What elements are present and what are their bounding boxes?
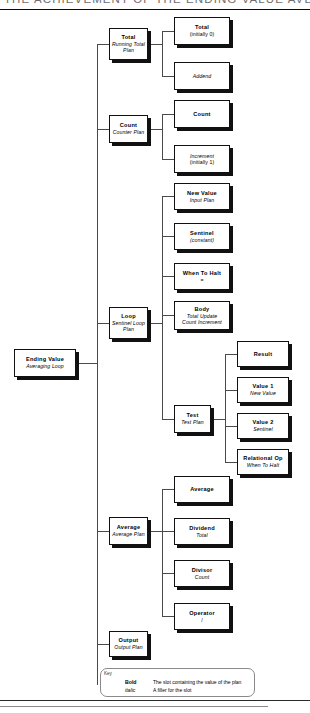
node-total-running-total-plan[interactable]: Total Running Total Plan bbox=[109, 28, 148, 60]
key-desc-italic: A filler for the slot bbox=[153, 687, 191, 693]
node-italic-label: Total bbox=[196, 532, 208, 538]
connector-average-out bbox=[147, 531, 163, 532]
connector-count-bus bbox=[162, 114, 163, 159]
header-rule bbox=[0, 9, 310, 10]
key-desc-bold: The slot containing the value of the pla… bbox=[153, 679, 241, 685]
node-italic-label-2: Count Increment bbox=[182, 319, 222, 325]
node-increment-slot[interactable]: Increment (initially 1) bbox=[174, 145, 230, 173]
node-italic-label: Test Plan bbox=[181, 419, 203, 425]
connector-relop-slot bbox=[225, 462, 237, 463]
key-panel: Key Bold The slot containing the value o… bbox=[100, 668, 255, 697]
footer-rule bbox=[0, 700, 310, 701]
connector-value2-slot bbox=[225, 426, 237, 427]
node-bold-label: New Value bbox=[187, 190, 217, 197]
node-total-slot[interactable]: Total (initially 0) bbox=[174, 17, 230, 45]
connector-total-out bbox=[147, 44, 163, 45]
connector-trunk-count bbox=[97, 129, 109, 130]
connector-total-slot bbox=[162, 31, 174, 32]
connector-count-out bbox=[147, 129, 163, 130]
node-normal-label: = bbox=[200, 277, 203, 283]
connector-value1-slot bbox=[225, 390, 237, 391]
node-relational-op-slot[interactable]: Relational Op When To Halt bbox=[237, 449, 289, 475]
node-bold-label: Ending Value bbox=[26, 356, 64, 363]
node-italic-label: Addend bbox=[193, 73, 212, 79]
connector-test-bus bbox=[225, 354, 226, 462]
node-bold-label: Relational Op bbox=[243, 455, 282, 462]
connector-trunk-average bbox=[97, 531, 109, 532]
connector-average-slot bbox=[162, 489, 174, 490]
connector-addend-slot bbox=[162, 76, 174, 77]
node-bold-label: Test bbox=[186, 412, 198, 419]
node-new-value-slot[interactable]: New Value Input Plan bbox=[174, 183, 230, 210]
connector-result-slot bbox=[225, 354, 237, 355]
node-result-slot[interactable]: Result bbox=[237, 341, 289, 367]
node-bold-label: Output bbox=[119, 637, 139, 644]
node-bold-label: Average bbox=[190, 486, 214, 493]
node-bold-label: Value 1 bbox=[252, 383, 273, 390]
connector-loop-bus bbox=[162, 196, 163, 419]
node-bold-label: Operator bbox=[189, 610, 215, 617]
node-test-slot[interactable]: Test Test Plan bbox=[174, 405, 211, 433]
node-sentinel-slot[interactable]: Sentinel (constant) bbox=[174, 223, 230, 250]
connector-divisor-slot bbox=[162, 573, 174, 574]
key-term-italic: italic bbox=[125, 687, 147, 693]
node-italic-label: Input Plan bbox=[190, 197, 214, 203]
node-italic-label-2: Plan bbox=[123, 47, 134, 53]
connector-body-slot bbox=[162, 315, 174, 316]
key-row: Bold The slot containing the value of th… bbox=[125, 679, 241, 685]
node-italic-label: Output Plan bbox=[114, 644, 143, 650]
node-loop-sentinel-loop-plan[interactable]: Loop Sentinel Loop Plan bbox=[109, 307, 148, 339]
connector-main-trunk bbox=[97, 44, 98, 685]
node-normal-label: (initially 1) bbox=[190, 159, 215, 165]
key-term-bold: Bold bbox=[125, 679, 147, 685]
node-bold-label: Dividend bbox=[189, 525, 215, 532]
node-italic-label: Average Plan bbox=[112, 531, 144, 537]
connector-test-slot bbox=[162, 419, 174, 420]
node-bold-label: Total bbox=[195, 24, 209, 31]
node-bold-label: Average bbox=[117, 524, 141, 531]
node-italic-label: Averaging Loop bbox=[26, 363, 64, 369]
connector-average-bus bbox=[162, 489, 163, 616]
connector-newvalue-slot bbox=[162, 196, 174, 197]
node-bold-label: Divisor bbox=[192, 567, 213, 574]
node-bold-label: Total bbox=[121, 34, 135, 41]
connector-test-out bbox=[211, 419, 226, 420]
node-operator-slot[interactable]: Operator / bbox=[174, 603, 230, 630]
connector-sentinel-slot bbox=[162, 236, 174, 237]
connector-whentohalt-slot bbox=[162, 276, 174, 277]
connector-total-bus bbox=[162, 31, 163, 76]
node-body-slot[interactable]: Body Total Update Count Increment bbox=[174, 301, 230, 330]
node-bold-label: When To Halt bbox=[183, 270, 221, 277]
node-count-slot[interactable]: Count bbox=[174, 100, 230, 128]
node-addend-slot[interactable]: Addend bbox=[174, 62, 230, 90]
node-average-slot[interactable]: Average bbox=[174, 476, 230, 503]
node-ending-value-averaging-loop[interactable]: Ending Value Averaging Loop bbox=[14, 349, 76, 377]
node-when-to-halt-slot[interactable]: When To Halt = bbox=[174, 263, 230, 290]
key-row: italic A filler for the slot bbox=[125, 687, 191, 693]
connector-increment-slot bbox=[162, 159, 174, 160]
node-dividend-slot[interactable]: Dividend Total bbox=[174, 518, 230, 545]
node-italic-label: Count bbox=[195, 574, 209, 580]
connector-root-out bbox=[76, 363, 98, 364]
node-italic-label: New Value bbox=[250, 390, 276, 396]
node-italic-label: When To Halt bbox=[247, 462, 279, 468]
node-bold-label: Count bbox=[120, 122, 137, 129]
node-value2-slot[interactable]: Value 2 Sentinel bbox=[237, 413, 289, 439]
node-count-counter-plan[interactable]: Count Counter Plan bbox=[109, 115, 148, 143]
node-normal-label: / bbox=[201, 617, 203, 623]
page-header-title: THE ACHIEVEMENT OF THE ENDING VALUE AVER… bbox=[0, 0, 310, 6]
node-bold-label: Loop bbox=[121, 313, 136, 320]
node-italic-label: Counter Plan bbox=[113, 129, 144, 135]
node-bold-label: Sentinel bbox=[190, 230, 214, 237]
connector-trunk-output bbox=[97, 644, 109, 645]
node-output-output-plan[interactable]: Output Output Plan bbox=[109, 631, 148, 657]
key-title: Key bbox=[104, 671, 112, 676]
connector-loop-out bbox=[147, 323, 163, 324]
node-average-average-plan[interactable]: Average Average Plan bbox=[109, 517, 148, 545]
node-italic-label: (constant) bbox=[190, 237, 214, 243]
connector-count-slot bbox=[162, 114, 174, 115]
node-divisor-slot[interactable]: Divisor Count bbox=[174, 560, 230, 587]
node-value1-slot[interactable]: Value 1 New Value bbox=[237, 377, 289, 403]
figure-canvas: THE ACHIEVEMENT OF THE ENDING VALUE AVER… bbox=[0, 0, 310, 713]
page-header-title-clip: THE ACHIEVEMENT OF THE ENDING VALUE AVER… bbox=[0, 0, 310, 6]
